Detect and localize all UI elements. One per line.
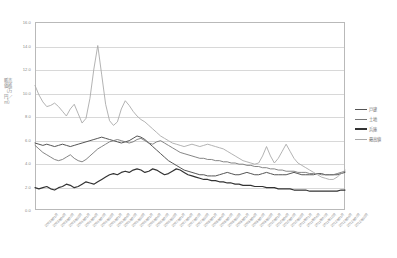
legend-item-label: 戸建 <box>369 106 377 112</box>
legend-line-swatch <box>355 139 367 140</box>
legend-item-2[interactable]: 兵庫 <box>355 124 397 134</box>
y-axis-tick-label: 10.0 <box>23 90 31 95</box>
y-axis-tick-label: 8.0 <box>25 114 31 119</box>
series-line-3 <box>35 46 345 180</box>
y-axis-tick-label: 2.0 <box>25 184 31 189</box>
legend-item-0[interactable]: 戸建 <box>355 104 397 114</box>
series-line-0 <box>35 136 345 176</box>
y-axis-tick-labels: 16.014.012.010.08.06.04.02.00.0 <box>0 22 34 210</box>
series-container <box>35 22 345 210</box>
y-axis-tick-label: 16.0 <box>23 20 31 25</box>
line-chart: 販売価格（万円／㎡） 16.014.012.010.08.06.04.02.00… <box>0 0 397 258</box>
y-axis-tick-label: 4.0 <box>25 161 31 166</box>
legend-line-swatch <box>355 109 367 110</box>
legend-item-label: 兵庫 <box>369 126 377 132</box>
y-axis-tick-label: 6.0 <box>25 137 31 142</box>
legend-item-label: 土地 <box>369 116 377 122</box>
legend-line-swatch <box>355 128 367 129</box>
chart-legend: 戸建土地兵庫最高値 <box>355 104 397 144</box>
legend-line-swatch <box>355 119 367 120</box>
legend-item-1[interactable]: 土地 <box>355 114 397 124</box>
legend-item-3[interactable]: 最高値 <box>355 134 397 144</box>
y-axis-tick-label: 12.0 <box>23 67 31 72</box>
x-axis-tick-labels: 2003年01月2003年04月2003年07月2003年10月2004年01月… <box>35 212 345 258</box>
y-axis-tick-label: 14.0 <box>23 43 31 48</box>
y-axis-tick-label: 0.0 <box>25 208 31 213</box>
legend-item-label: 最高値 <box>369 136 381 142</box>
series-line-1 <box>35 138 345 174</box>
